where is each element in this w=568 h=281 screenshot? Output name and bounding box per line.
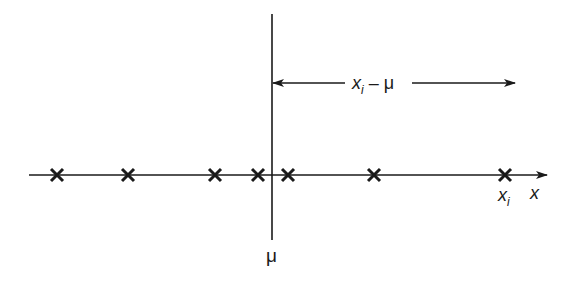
point-xi-label: xi (497, 185, 510, 209)
axis-label-x: x (529, 183, 540, 203)
deviation-label: xi – μ (351, 73, 394, 97)
mean-deviation-diagram: xi – μ μ xi x (0, 0, 568, 281)
mean-label: μ (266, 245, 277, 266)
